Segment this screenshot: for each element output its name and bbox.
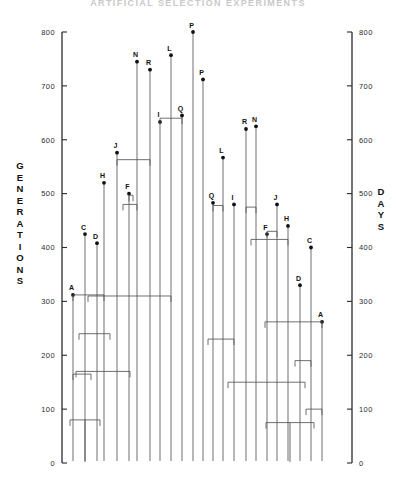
right-axis-tick-label: 600 (359, 136, 373, 145)
left-axis-tick-label: 300 (41, 297, 55, 306)
leaf-tip-dot (102, 181, 106, 185)
leaf-label: N (252, 116, 257, 123)
leaf-label: C (81, 224, 86, 231)
left-axis-tick-label: 100 (41, 405, 55, 414)
leaf-tip-dot (201, 78, 205, 82)
leaf-tip-dot (275, 203, 279, 207)
leaf-tip-dot (191, 30, 195, 34)
leaf-label: Q (209, 192, 215, 200)
leaf-tip-dot (244, 127, 248, 131)
leaf-tip-dot (254, 124, 258, 128)
leaf-label: D (296, 275, 301, 282)
right-axis: 0100200300400500600700800 (347, 28, 373, 468)
left-axis-tick-label: 700 (41, 82, 55, 91)
leaf-label: L (219, 147, 224, 154)
leaf-label: I (158, 111, 160, 118)
right-axis-tick-label: 200 (359, 351, 373, 360)
leaf-tip-dot (169, 53, 173, 57)
leaf-label: C (307, 237, 312, 244)
leaf-tip-dot (286, 224, 290, 228)
leaf-label: A (69, 284, 74, 291)
leaf-label: A (318, 311, 323, 318)
leaf-tip-dot (180, 114, 184, 118)
leaf-tip-dot (211, 201, 215, 205)
left-axis-tick-label: 500 (41, 189, 55, 198)
leaf-label: J (274, 194, 278, 201)
leaf-label: F (263, 224, 268, 231)
leaf-label: D (93, 233, 98, 240)
leaf-tip-dot (309, 246, 313, 250)
leaf-tip-dot (221, 156, 225, 160)
right-axis-tick-label: 100 (359, 405, 373, 414)
leaf-label: P (189, 22, 194, 29)
days-tree: PQLIRNJFHDCA (199, 69, 324, 462)
right-axis-tick-label: 700 (359, 82, 373, 91)
leaf-label: I (232, 194, 234, 201)
leaf-label: H (284, 215, 289, 222)
leaf-label: H (100, 172, 105, 179)
left-axis-tick-label: 400 (41, 243, 55, 252)
leaf-label: Q (178, 105, 184, 113)
leaf-tip-dot (83, 232, 87, 236)
right-axis-tick-label: 800 (359, 28, 373, 37)
right-axis-tick-label: 300 (359, 297, 373, 306)
left-axis-tick-label: 200 (41, 351, 55, 360)
leaf-label: P (199, 69, 204, 76)
leaf-tip-dot (298, 283, 302, 287)
right-axis-tick-label: 400 (359, 243, 373, 252)
leaf-label: J (114, 142, 118, 149)
leaf-tip-dot (135, 60, 139, 64)
left-axis: 0100200300400500600700800 (41, 28, 67, 468)
leaf-tip-dot (115, 151, 119, 155)
leaf-label: N (133, 51, 138, 58)
leaf-label: R (242, 118, 247, 125)
right-axis-tick-label: 500 (359, 189, 373, 198)
generations-tree: ACDHJFNRILQP (69, 22, 195, 463)
leaf-tip-dot (95, 241, 99, 245)
left-axis-tick-label: 600 (41, 136, 55, 145)
leaf-tip-dot (148, 68, 152, 72)
left-axis-tick-label: 800 (41, 28, 55, 37)
leaf-label: L (167, 45, 172, 52)
chart-canvas: ARTIFICIAL SELECTION EXPERIMENTS GENERAT… (0, 0, 396, 480)
left-axis-tick-label: 0 (50, 459, 55, 468)
leaf-label: R (146, 59, 151, 66)
leaf-tip-dot (232, 203, 236, 207)
dendrogram-plot: 0100200300400500600700800 01002003004005… (0, 0, 396, 480)
right-axis-tick-label: 0 (359, 459, 364, 468)
leaf-label: F (125, 183, 130, 190)
